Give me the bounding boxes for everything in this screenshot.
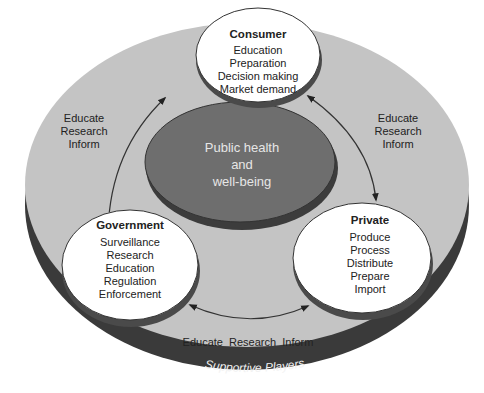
node-private: Private Produce Process Distribute Prepa… — [293, 203, 433, 320]
link-label-right-line: Research — [374, 125, 421, 137]
node-consumer-title: Consumer — [230, 28, 287, 40]
node-government: Government Surveillance Research Educati… — [62, 210, 200, 327]
node-consumer-item: Decision making — [218, 70, 299, 82]
node-private-item: Prepare — [350, 270, 389, 282]
link-label-left-line: Inform — [68, 138, 99, 150]
node-government-item: Surveillance — [100, 236, 160, 248]
center-label-line-2: and — [231, 157, 253, 172]
node-government-item: Education — [106, 262, 155, 274]
node-private-item: Process — [350, 244, 390, 256]
center-label-line-3: well-being — [212, 174, 272, 189]
link-label-bottom: Educate Research Inform — [183, 336, 314, 348]
center-disc: Public health and well-being — [145, 102, 338, 230]
node-private-item: Distribute — [347, 257, 393, 269]
node-government-item: Regulation — [104, 275, 157, 287]
node-consumer: Consumer Education Preparation Decision … — [196, 8, 322, 108]
link-label-right-line: Inform — [382, 138, 413, 150]
node-government-title: Government — [96, 219, 164, 231]
node-private-item: Produce — [350, 231, 391, 243]
public-health-diagram: Supportive Players Public health and wel… — [0, 0, 484, 393]
node-private-item: Import — [354, 283, 385, 295]
link-label-right-line: Educate — [378, 112, 418, 124]
node-government-item: Research — [106, 249, 153, 261]
link-label-left-line: Educate — [64, 112, 104, 124]
node-private-title: Private — [351, 214, 389, 226]
node-consumer-item: Market demand — [220, 83, 296, 95]
node-consumer-item: Preparation — [230, 57, 287, 69]
center-label-line-1: Public health — [205, 140, 279, 155]
link-label-left-line: Research — [60, 125, 107, 137]
node-consumer-item: Education — [234, 44, 283, 56]
node-government-item: Enforcement — [99, 288, 161, 300]
